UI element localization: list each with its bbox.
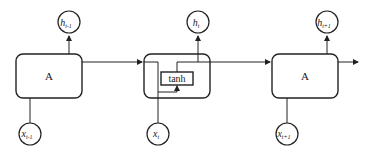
svg-text:ht+1: ht+1 [317,17,331,29]
svg-text:ht-1: ht-1 [60,17,72,29]
tanh-label: tanh [168,73,185,84]
svg-text:ht: ht [193,17,200,29]
cell-1: A ht-1 xt-1 [16,11,82,145]
rnn-diagram: A ht-1 xt-1 tanh ht xt A ht+1 xt+1 [0,0,374,158]
cell-1-label: A [45,70,53,82]
output-node-2 [187,11,209,33]
cell-2: tanh ht xt [144,11,210,145]
svg-text:xt: xt [152,128,159,140]
svg-text:xt-1: xt-1 [20,128,32,140]
svg-text:xt+1: xt+1 [276,128,290,140]
cell-3-label: A [301,70,309,82]
cell-3: A ht+1 xt+1 [272,11,358,145]
